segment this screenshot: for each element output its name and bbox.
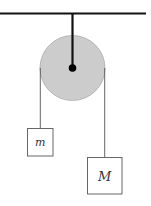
mass-box-m: m [28,129,54,157]
pulley-axle [69,64,77,72]
mass-label-M: M [97,169,112,184]
mass-box-M: M [88,158,123,195]
mass-label-m: m [35,136,45,149]
atwood-machine-diagram: m M [0,0,151,206]
